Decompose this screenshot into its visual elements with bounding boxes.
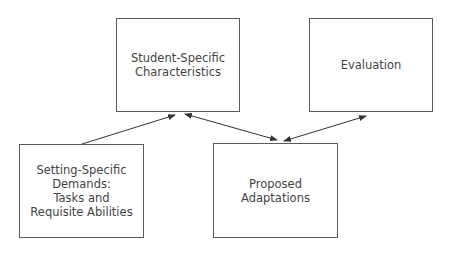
arrow-proposed-evaluation	[284, 116, 366, 141]
node-label: Student-Specific Characteristics	[131, 51, 225, 79]
node-label: Evaluation	[341, 58, 402, 72]
node-setting-demands: Setting-Specific Demands: Tasks and Requ…	[19, 144, 144, 238]
node-evaluation: Evaluation	[309, 18, 433, 112]
node-student-characteristics: Student-Specific Characteristics	[116, 18, 240, 112]
node-label: Setting-Specific Demands: Tasks and Requ…	[30, 163, 132, 219]
arrow-setting-to-student	[82, 115, 175, 144]
node-label: Proposed Adaptations	[241, 177, 310, 205]
arrow-student-proposed	[185, 114, 277, 140]
node-proposed-adaptations: Proposed Adaptations	[213, 143, 338, 238]
